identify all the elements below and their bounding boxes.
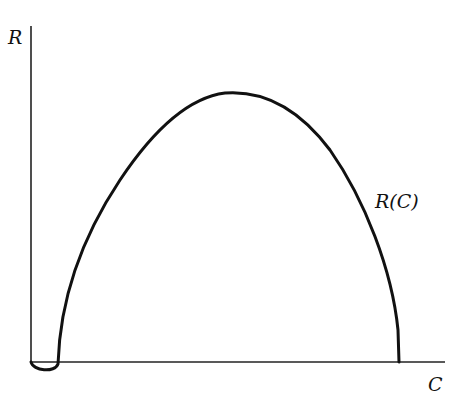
revenue-curve	[31, 93, 399, 370]
x-axis-label: C	[428, 375, 443, 394]
curve-label: R(C)	[375, 192, 419, 211]
y-axis-label: R	[8, 28, 22, 47]
